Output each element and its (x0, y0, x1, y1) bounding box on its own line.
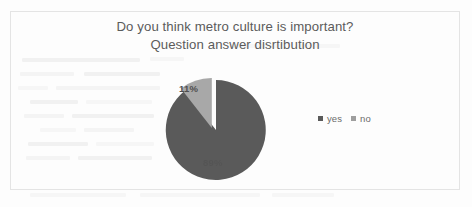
pie-chart-svg (160, 74, 272, 186)
screenshot-root: Do you think metro culture is important?… (0, 0, 472, 207)
legend-label-no: no (360, 113, 371, 124)
pie-data-label-no: 11% (179, 83, 198, 94)
pie-data-label-yes: 89% (203, 157, 223, 168)
legend-swatch-no-icon (351, 116, 356, 121)
legend-item-no[interactable]: no (351, 113, 371, 124)
legend-swatch-yes-icon (318, 116, 323, 121)
legend-item-yes[interactable]: yes (318, 113, 342, 124)
chart-title-line-2: Question answer disrtibution (10, 36, 460, 54)
chart-legend: yes no (318, 113, 371, 124)
chart-title-line-1: Do you think metro culture is important? (10, 18, 460, 36)
pie-chart: 11% 89% (160, 74, 272, 186)
chart-title: Do you think metro culture is important?… (10, 18, 460, 53)
legend-label-yes: yes (327, 113, 342, 124)
